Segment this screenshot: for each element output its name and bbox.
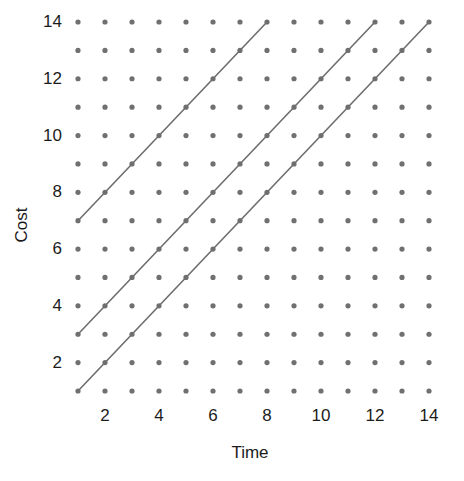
lattice-dot bbox=[426, 275, 431, 280]
x-axis-title: Time bbox=[231, 443, 268, 463]
lattice-dot bbox=[372, 388, 377, 393]
lattice-dot bbox=[210, 19, 215, 24]
lattice-dot bbox=[75, 246, 80, 251]
lattice-dot bbox=[237, 19, 242, 24]
lattice-dot bbox=[426, 218, 431, 223]
lattice-dot bbox=[426, 388, 431, 393]
lattice-dot bbox=[183, 388, 188, 393]
y-tick-label: 2 bbox=[0, 353, 62, 373]
lattice-dot bbox=[156, 48, 161, 53]
lattice-dot bbox=[264, 161, 269, 166]
lattice-dot bbox=[102, 332, 107, 337]
lattice-dot bbox=[399, 190, 404, 195]
lattice-dot bbox=[291, 48, 296, 53]
lattice-dot bbox=[345, 246, 350, 251]
lattice-dot bbox=[426, 332, 431, 337]
lattice-dot bbox=[75, 76, 80, 81]
lattice-dot bbox=[318, 218, 323, 223]
x-tick-label: 2 bbox=[100, 406, 109, 426]
lattice-dot bbox=[183, 19, 188, 24]
lattice-dot bbox=[426, 161, 431, 166]
lattice-dot bbox=[291, 303, 296, 308]
lattice-dot bbox=[426, 105, 431, 110]
lattice-dot bbox=[372, 360, 377, 365]
lattice-dot bbox=[345, 161, 350, 166]
lattice-dot bbox=[291, 19, 296, 24]
lattice-dot bbox=[372, 332, 377, 337]
lattice-dot bbox=[399, 332, 404, 337]
lattice-dot bbox=[318, 19, 323, 24]
y-tick-label: 10 bbox=[0, 126, 62, 146]
lattice-dot bbox=[399, 19, 404, 24]
lattice-dot bbox=[210, 275, 215, 280]
lattice-dot bbox=[156, 190, 161, 195]
lattice-dot bbox=[102, 19, 107, 24]
lattice-dot bbox=[318, 190, 323, 195]
x-tick-label: 12 bbox=[366, 406, 385, 426]
lattice-dot bbox=[318, 303, 323, 308]
lattice-dot bbox=[183, 332, 188, 337]
plot-area bbox=[0, 0, 464, 481]
lattice-dot bbox=[291, 332, 296, 337]
lattice-dot bbox=[210, 360, 215, 365]
lattice-dot bbox=[318, 360, 323, 365]
lattice-dot bbox=[210, 48, 215, 53]
lattice-dot bbox=[264, 332, 269, 337]
lattice-dot bbox=[102, 133, 107, 138]
lattice-dot bbox=[345, 303, 350, 308]
lattice-dot bbox=[183, 161, 188, 166]
lattice-dot bbox=[372, 190, 377, 195]
lattice-dot bbox=[129, 48, 134, 53]
lattice-dot bbox=[129, 133, 134, 138]
lattice-dot bbox=[156, 105, 161, 110]
lattice-dot bbox=[318, 275, 323, 280]
lattice-dot bbox=[291, 246, 296, 251]
x-tick-label: 8 bbox=[262, 406, 271, 426]
lattice-dot bbox=[426, 133, 431, 138]
lattice-dot bbox=[291, 76, 296, 81]
lattice-dot bbox=[264, 360, 269, 365]
lattice-dot bbox=[102, 105, 107, 110]
lattice-dot bbox=[156, 218, 161, 223]
lattice-dot bbox=[237, 76, 242, 81]
lattice-dot bbox=[345, 388, 350, 393]
lattice-dot bbox=[237, 303, 242, 308]
lattice-dot bbox=[75, 303, 80, 308]
lattice-dot bbox=[372, 218, 377, 223]
lattice-dot bbox=[372, 161, 377, 166]
lattice-dot bbox=[237, 275, 242, 280]
lattice-dot bbox=[102, 76, 107, 81]
y-tick-label: 14 bbox=[0, 12, 62, 32]
lattice-dot bbox=[318, 48, 323, 53]
lattice-dot bbox=[291, 133, 296, 138]
lattice-dot bbox=[345, 19, 350, 24]
lattice-dot bbox=[345, 218, 350, 223]
lattice-dot bbox=[156, 332, 161, 337]
lattice-dot bbox=[345, 332, 350, 337]
lattice-dot bbox=[372, 275, 377, 280]
lattice-dot bbox=[156, 275, 161, 280]
lattice-dot bbox=[129, 218, 134, 223]
lattice-dot bbox=[264, 246, 269, 251]
lattice-dot bbox=[75, 133, 80, 138]
lattice-dot bbox=[129, 190, 134, 195]
lattice-dot bbox=[75, 105, 80, 110]
lattice-dot bbox=[183, 190, 188, 195]
lattice-dot bbox=[399, 303, 404, 308]
lattice-dot bbox=[291, 388, 296, 393]
lattice-dot bbox=[426, 76, 431, 81]
lattice-dot bbox=[210, 218, 215, 223]
lattice-dot bbox=[210, 388, 215, 393]
lattice-dot bbox=[156, 360, 161, 365]
lattice-dot bbox=[183, 360, 188, 365]
x-tick-label: 14 bbox=[420, 406, 439, 426]
lattice-dot bbox=[102, 246, 107, 251]
lattice-dot bbox=[264, 218, 269, 223]
lattice-dot bbox=[210, 303, 215, 308]
lattice-dot bbox=[318, 332, 323, 337]
lattice-dot bbox=[210, 133, 215, 138]
lattice-dot bbox=[237, 388, 242, 393]
x-tick-label: 6 bbox=[208, 406, 217, 426]
lattice-dot bbox=[399, 246, 404, 251]
lattice-dot bbox=[318, 105, 323, 110]
